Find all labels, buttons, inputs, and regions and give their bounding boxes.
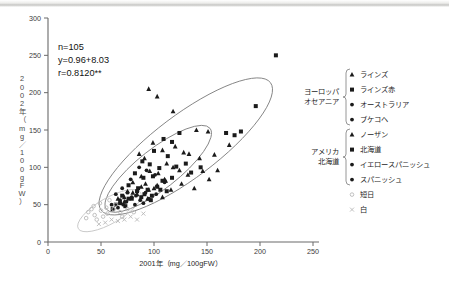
point-square (150, 194, 154, 198)
point-circle (114, 192, 118, 196)
point-circle-open (101, 215, 105, 219)
point-square (166, 154, 170, 158)
legend-item-label: ブケコヘ (360, 115, 388, 124)
point-square (189, 171, 193, 175)
point-triangle (207, 177, 212, 182)
point-triangle (212, 152, 217, 157)
point-circle-open (84, 216, 88, 220)
legend-group-label: オセアニア (304, 97, 339, 106)
point-square (170, 140, 174, 144)
legend-item-label: イエロースパニッシュ (360, 160, 430, 169)
point-circle (350, 163, 354, 167)
x-tick-label: 0 (46, 247, 50, 256)
point-square (158, 188, 162, 192)
point-square (127, 183, 131, 187)
point-triangle (181, 150, 186, 155)
point-square (148, 162, 152, 166)
x-tick-label: 250 (307, 247, 319, 256)
legend-item-label: ノーザン (360, 130, 388, 139)
legend-item-label: 短日 (360, 190, 374, 199)
point-triangle (143, 181, 148, 186)
point-circle (126, 191, 130, 195)
point-x (122, 218, 126, 222)
point-circle (129, 177, 133, 181)
point-circle-open (95, 218, 99, 222)
legend-brace (343, 129, 350, 185)
point-circle (350, 178, 354, 182)
legend-group-label: アメリカ (311, 147, 339, 156)
annotation-line: y=0.96+8.03 (58, 55, 109, 65)
point-square (233, 133, 237, 137)
stat-annotations: n=105y=0.96+8.03r=0.8120** (58, 42, 109, 78)
point-square (350, 88, 354, 92)
x-tick-label: 50 (97, 247, 105, 256)
point-circle (120, 186, 124, 190)
point-triangle (169, 187, 174, 192)
chart-legend: ラインズラインズ赤オーストラリアブケコヘヨーロッパオセアニアノーザン北海道イエロ… (304, 69, 430, 214)
y-axis-title-char: ） (19, 197, 26, 206)
y-tick-label: 300 (29, 14, 41, 23)
point-square (162, 137, 166, 141)
point-triangle (160, 195, 165, 200)
point-square (135, 189, 139, 193)
point-square (199, 165, 203, 169)
point-triangle (206, 129, 211, 134)
point-square (224, 131, 228, 135)
point-x (103, 221, 107, 225)
point-circle (130, 195, 134, 199)
point-square (184, 162, 188, 166)
point-square (133, 171, 137, 175)
point-triangle (137, 151, 142, 156)
point-triangle (171, 109, 176, 114)
point-circle (110, 203, 114, 207)
point-square (152, 149, 156, 153)
annotation-line: n=105 (58, 42, 84, 52)
point-square (170, 176, 174, 180)
point-square (174, 165, 178, 169)
point-circle (133, 203, 137, 207)
point-x (129, 215, 133, 219)
point-square (274, 53, 278, 57)
point-x (350, 208, 354, 212)
point-circle (147, 197, 151, 201)
point-square (140, 159, 144, 163)
legend-item-label: オーストラリア (360, 100, 409, 109)
point-x (97, 222, 101, 226)
x-tick-label: 200 (254, 247, 266, 256)
cluster-ellipses (72, 58, 289, 240)
point-circle-open (86, 210, 90, 214)
point-square (142, 192, 146, 196)
chart-svg: 0501001502002503000501001502002502001年（m… (0, 0, 449, 282)
point-x (110, 218, 114, 222)
point-triangle (350, 132, 355, 137)
point-square (254, 104, 258, 108)
y-tick-label: 250 (29, 51, 41, 60)
data-points (84, 53, 278, 226)
legend-item-label: スパニッシュ (360, 175, 402, 184)
scatter-chart: 0501001502002503000501001502002502001年（m… (0, 0, 449, 282)
x-axis-title: 2001年（mg／100gFW） (139, 259, 222, 268)
point-square (141, 176, 145, 180)
point-circle (137, 165, 141, 169)
legend-item-label: ラインズ (360, 70, 388, 79)
y-tick-label: 150 (29, 126, 41, 135)
point-circle (142, 201, 146, 205)
point-triangle (160, 148, 165, 153)
point-circle-open (350, 193, 354, 197)
point-circle (153, 173, 157, 177)
point-circle (121, 203, 125, 207)
point-triangle (164, 161, 169, 166)
y-tick-label: 100 (29, 163, 41, 172)
point-triangle (179, 181, 184, 186)
x-tick-label: 100 (148, 247, 160, 256)
point-square (165, 189, 169, 193)
point-triangle (192, 186, 197, 191)
legend-group-label: ヨーロッパ (304, 87, 339, 96)
point-circle (145, 168, 149, 172)
point-triangle (215, 168, 220, 173)
point-square (350, 148, 354, 152)
point-triangle (350, 72, 355, 77)
y-tick-label: 0 (37, 238, 41, 247)
point-triangle (197, 156, 202, 161)
point-square (157, 166, 161, 170)
